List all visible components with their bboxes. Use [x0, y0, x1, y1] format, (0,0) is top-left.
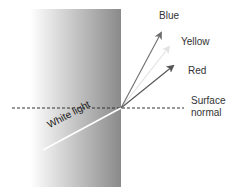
glass-block — [30, 9, 121, 187]
yellow-ray — [121, 47, 169, 108]
blue-ray — [121, 33, 161, 108]
label-blue: Blue — [159, 10, 179, 22]
red-ray — [121, 66, 173, 108]
label-surface-normal-2: normal — [191, 107, 222, 119]
label-yellow: Yellow — [181, 36, 210, 48]
label-red: Red — [188, 65, 206, 77]
label-surface-normal-1: Surface — [191, 95, 225, 107]
